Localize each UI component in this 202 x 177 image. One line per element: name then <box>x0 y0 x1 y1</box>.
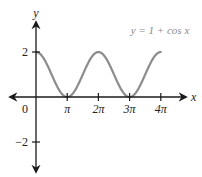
x-tick-label: 3π <box>123 102 137 116</box>
origin-label: 0 <box>22 102 28 116</box>
function-annotation: y = 1 + cos x <box>130 24 190 36</box>
cosine-curve <box>36 52 161 97</box>
x-axis-label: x <box>190 90 197 104</box>
plot: π2π3π4π 2−2 y x 0 y = 1 + cos x <box>0 0 202 177</box>
x-tick-label: 4π <box>155 102 168 116</box>
y-axis-label: y <box>32 6 39 20</box>
y-tick-label: 2 <box>22 45 28 59</box>
x-tick-label: 2π <box>92 102 105 116</box>
y-tick-label: −2 <box>15 135 28 149</box>
x-tick-label: π <box>64 102 71 116</box>
